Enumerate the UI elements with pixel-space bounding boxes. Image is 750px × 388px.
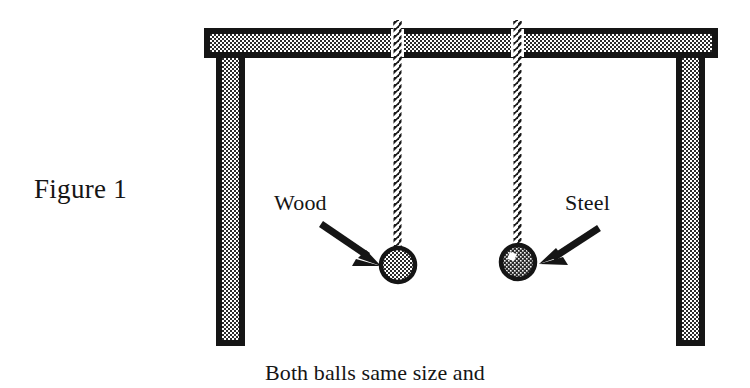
wood-ball-body bbox=[381, 248, 415, 282]
steel-ball bbox=[501, 245, 535, 279]
steel-ball-label: Steel bbox=[565, 190, 610, 216]
wood-ball bbox=[381, 248, 415, 282]
figure-1-diagram: Figure 1 Wood Steel Both balls same size… bbox=[0, 0, 750, 388]
wood-pointer-arrow bbox=[321, 224, 381, 266]
steel-string-rope-top bbox=[514, 20, 522, 60]
wood-arrow-shaft bbox=[321, 224, 368, 256]
figure-note-line-1: Both balls same size and bbox=[0, 358, 750, 387]
support-beam bbox=[207, 31, 715, 55]
support-beam-body bbox=[207, 31, 715, 55]
steel-pendulum-string bbox=[511, 20, 524, 248]
figure-note: Both balls same size and same hanging le… bbox=[0, 300, 750, 388]
wood-pendulum-string bbox=[391, 20, 404, 250]
wood-ball-label: Wood bbox=[274, 190, 327, 216]
figure-number-label: Figure 1 bbox=[34, 174, 127, 205]
wood-string-rope-top bbox=[394, 20, 402, 60]
steel-pointer-arrow bbox=[539, 228, 599, 265]
steel-ball-body bbox=[501, 245, 535, 279]
